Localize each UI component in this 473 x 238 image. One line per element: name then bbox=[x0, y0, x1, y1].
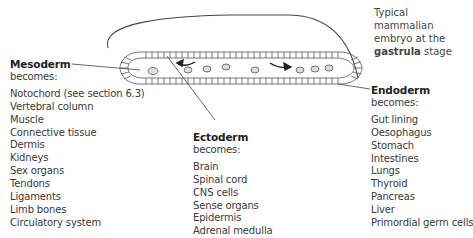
list-item: Sex organs bbox=[10, 165, 145, 178]
caption-bold-term: gastrula bbox=[374, 46, 421, 57]
list-item: Brain bbox=[193, 161, 273, 174]
ectoderm-title: Ectoderm bbox=[193, 131, 273, 144]
list-item: Kidneys bbox=[10, 152, 145, 165]
list-item: Gut lining bbox=[371, 114, 473, 127]
endoderm-title: Endoderm bbox=[371, 84, 473, 97]
list-item: Liver bbox=[371, 204, 473, 217]
list-item: Stomach bbox=[371, 140, 473, 153]
list-item: Dermis bbox=[10, 139, 145, 152]
list-item: Circulatory system bbox=[10, 217, 145, 230]
list-item: Sense organs bbox=[193, 200, 273, 213]
list-item: Adrenal medulla bbox=[193, 225, 273, 238]
endoderm-leader bbox=[338, 84, 370, 89]
mesoderm-cells bbox=[148, 64, 333, 75]
ectoderm-list: Brain Spinal cord CNS cells Sense organs… bbox=[193, 161, 273, 238]
diagram-caption: Typical mammalian embryo at the gastrula… bbox=[374, 6, 467, 58]
migration-arrows bbox=[177, 60, 291, 70]
list-item: Epidermis bbox=[193, 212, 273, 225]
caption-rest: stage bbox=[421, 46, 452, 57]
list-item: Primordial germ cells bbox=[371, 217, 473, 230]
endoderm-list: Gut lining Oesophagus Stomach Intestines… bbox=[371, 114, 473, 230]
ectoderm-block: Ectoderm becomes: Brain Spinal cord CNS … bbox=[193, 131, 273, 238]
cell-row-top bbox=[146, 52, 338, 58]
endoderm-subtitle: becomes: bbox=[371, 97, 473, 110]
list-item: Connective tissue bbox=[10, 127, 145, 140]
list-item: Spinal cord bbox=[193, 174, 273, 187]
caption-line-1: Typical mammalian bbox=[374, 6, 467, 32]
list-item: Ligaments bbox=[10, 191, 145, 204]
list-item: Thyroid bbox=[371, 178, 473, 191]
ectoderm-leader bbox=[167, 56, 215, 120]
list-item: Lungs bbox=[371, 165, 473, 178]
mesoderm-subtitle: becomes: bbox=[10, 71, 145, 84]
list-item: Muscle bbox=[10, 114, 145, 127]
list-item: Oesophagus bbox=[371, 127, 473, 140]
list-item: Notochord (see section 6.3) bbox=[10, 88, 145, 101]
list-item: Tendons bbox=[10, 178, 145, 191]
list-item: Intestines bbox=[371, 153, 473, 166]
list-item: CNS cells bbox=[193, 187, 273, 200]
embryo-outer-outline bbox=[107, 15, 358, 78]
list-item: Limb bones bbox=[10, 204, 145, 217]
list-item: Vertebral column bbox=[10, 101, 145, 114]
mesoderm-title: Mesoderm bbox=[10, 58, 145, 71]
caption-line-3: gastrula stage bbox=[374, 45, 467, 58]
list-item: Pancreas bbox=[371, 191, 473, 204]
endoderm-block: Endoderm becomes: Gut lining Oesophagus … bbox=[371, 84, 473, 230]
ectoderm-subtitle: becomes: bbox=[193, 144, 273, 157]
caption-line-2: embryo at the bbox=[374, 32, 467, 45]
mesoderm-block: Mesoderm becomes: Notochord (see section… bbox=[10, 58, 145, 230]
cell-row-bottom bbox=[146, 78, 338, 84]
mesoderm-list: Notochord (see section 6.3) Vertebral co… bbox=[10, 88, 145, 230]
